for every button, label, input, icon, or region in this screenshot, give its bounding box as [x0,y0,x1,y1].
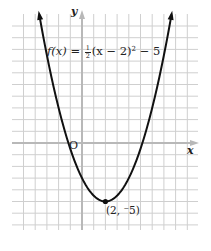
fraction-denominator: 2 [85,53,91,60]
function-label: f(x) = 1 2 (x − 2)2 − 5 [47,45,160,59]
equals-sign: = [70,44,80,58]
origin-label: O [69,140,78,151]
function-constant: − 5 [140,44,161,58]
exponent: 2 [132,45,136,53]
function-name: f(x) [47,44,67,58]
vertex-label: (2, ⁻5) [106,205,140,216]
function-body: (x − 2) [92,44,132,58]
coefficient-fraction: 1 2 [85,45,91,59]
x-axis-label: x [187,145,194,156]
y-axis-label: y [71,6,77,17]
